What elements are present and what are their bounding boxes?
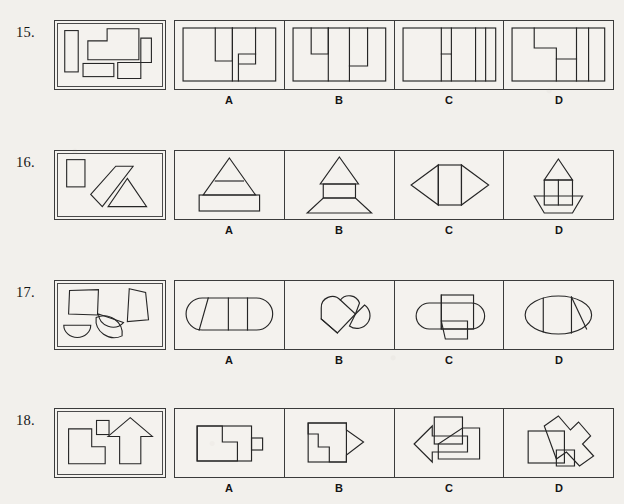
option-letters-16: A B C D — [174, 222, 614, 240]
option-17-A-shapes — [175, 281, 284, 349]
option-letter-D: D — [504, 92, 614, 110]
option-16-C[interactable] — [395, 151, 505, 219]
option-letter-A: A — [174, 352, 284, 370]
option-letter-C: C — [394, 352, 504, 370]
question-number-16: 16. — [16, 154, 35, 171]
option-16-B-shapes — [285, 151, 394, 219]
option-18-D[interactable] — [504, 409, 613, 477]
option-18-D-shapes — [504, 409, 613, 477]
stem-inner-border-15 — [57, 23, 163, 87]
question-row-15: 15. — [0, 18, 624, 118]
options-panel-18 — [174, 408, 614, 478]
stem-panel-18 — [54, 408, 166, 478]
options-panel-17 — [174, 280, 614, 350]
stem-panel-16 — [54, 150, 166, 220]
option-18-A-shapes — [175, 409, 284, 477]
stem-shapes-15 — [58, 24, 162, 86]
option-18-C[interactable] — [395, 409, 505, 477]
option-17-D[interactable] — [504, 281, 613, 349]
question-row-18: 18. — [0, 406, 624, 504]
option-letter-C: C — [394, 222, 504, 240]
question-number-15: 15. — [16, 24, 35, 41]
option-letter-D: D — [504, 222, 614, 240]
stem-inner-border-16 — [57, 153, 163, 217]
option-16-B[interactable] — [285, 151, 395, 219]
test-page: 15. — [0, 0, 624, 504]
option-17-C-shapes — [395, 281, 504, 349]
option-16-A-shapes — [175, 151, 284, 219]
option-letter-B: B — [284, 92, 394, 110]
question-number-18: 18. — [16, 412, 35, 429]
option-15-A[interactable] — [175, 21, 285, 89]
option-17-C[interactable] — [395, 281, 505, 349]
option-15-C-shapes — [395, 21, 504, 89]
stem-inner-border-18 — [57, 411, 163, 475]
option-15-D[interactable] — [504, 21, 613, 89]
option-letter-C: C — [394, 480, 504, 498]
question-row-16: 16. — [0, 148, 624, 248]
option-letter-A: A — [174, 480, 284, 498]
stem-shapes-16 — [58, 154, 162, 216]
option-16-C-shapes — [395, 151, 504, 219]
option-letters-15: A B C D — [174, 92, 614, 110]
options-panel-15 — [174, 20, 614, 90]
option-17-B-shapes — [285, 281, 394, 349]
option-letter-D: D — [504, 352, 614, 370]
option-15-D-shapes — [504, 21, 613, 89]
option-18-B-shapes — [285, 409, 394, 477]
option-15-C[interactable] — [395, 21, 505, 89]
option-16-D-shapes — [504, 151, 613, 219]
stem-panel-17 — [54, 280, 166, 350]
option-15-A-shapes — [175, 21, 284, 89]
option-17-A[interactable] — [175, 281, 285, 349]
option-letter-A: A — [174, 92, 284, 110]
option-17-D-shapes — [504, 281, 613, 349]
stem-inner-border-17 — [57, 283, 163, 347]
option-letter-B: B — [284, 480, 394, 498]
option-letter-D: D — [504, 480, 614, 498]
option-letter-B: B — [284, 352, 394, 370]
option-letter-B: B — [284, 222, 394, 240]
stem-shapes-17 — [58, 284, 162, 346]
stem-panel-15 — [54, 20, 166, 90]
question-number-17: 17. — [16, 284, 35, 301]
option-18-C-shapes — [395, 409, 504, 477]
option-16-D[interactable] — [504, 151, 613, 219]
option-15-B[interactable] — [285, 21, 395, 89]
option-letters-17: A B C D — [174, 352, 614, 370]
option-18-B[interactable] — [285, 409, 395, 477]
option-18-A[interactable] — [175, 409, 285, 477]
stem-shapes-18 — [58, 412, 162, 474]
option-17-B[interactable] — [285, 281, 395, 349]
option-15-B-shapes — [285, 21, 394, 89]
option-letter-C: C — [394, 92, 504, 110]
option-16-A[interactable] — [175, 151, 285, 219]
option-letters-18: A B C D — [174, 480, 614, 498]
options-panel-16 — [174, 150, 614, 220]
question-row-17: 17. — [0, 278, 624, 378]
option-letter-A: A — [174, 222, 284, 240]
